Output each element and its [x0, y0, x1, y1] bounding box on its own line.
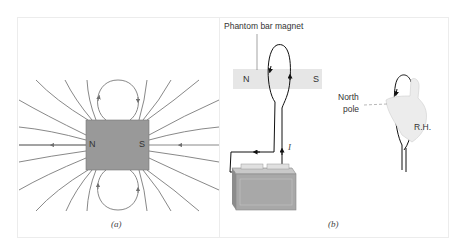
north-pole-leader	[364, 104, 387, 105]
phantom-north-label: N	[243, 74, 250, 84]
right-hand-label: R.H.	[414, 122, 431, 132]
phantom-bar-magnet-label: Phantom bar magnet	[224, 21, 303, 31]
current-label: I	[288, 142, 291, 152]
panel-a-diagram	[0, 0, 459, 250]
magnet-north-label: N	[89, 139, 96, 149]
caption-a: (a)	[111, 219, 122, 229]
north-pole-label-line1: North	[338, 92, 359, 102]
caption-b: (b)	[328, 219, 339, 229]
battery	[232, 164, 296, 210]
phantom-south-label: S	[313, 74, 319, 84]
current-loop	[230, 45, 290, 172]
magnet-south-label: S	[139, 139, 145, 149]
north-pole-label-line2: pole	[343, 104, 359, 114]
right-hand	[386, 78, 427, 142]
